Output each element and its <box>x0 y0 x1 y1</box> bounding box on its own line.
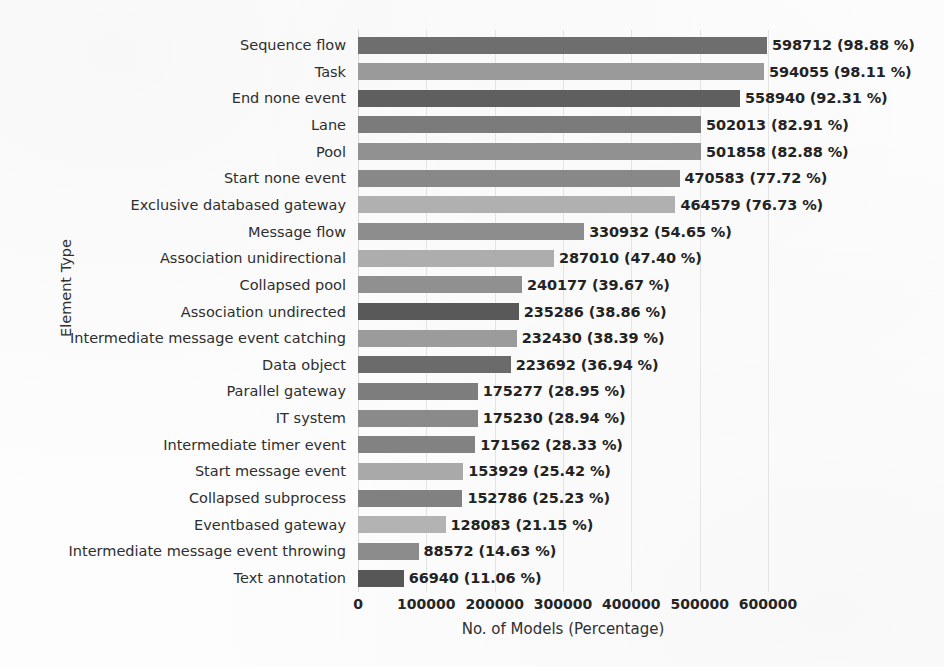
bar-value-label: 66940 (11.06 %) <box>409 570 542 586</box>
bar-value-label: 128083 (21.15 %) <box>451 517 594 533</box>
bar-row: 287010 (47.40 %) <box>358 250 768 267</box>
x-axis-tick-label: 200000 <box>465 596 523 612</box>
y-axis-tick-label: Start message event <box>195 463 346 479</box>
bar[interactable] <box>358 63 764 80</box>
bar-value-label: 330932 (54.65 %) <box>589 224 732 240</box>
bar-row: 88572 (14.63 %) <box>358 543 768 560</box>
bar[interactable] <box>358 223 584 240</box>
y-axis-tick-label: Intermediate message event catching <box>70 330 346 346</box>
bar-row: 232430 (38.39 %) <box>358 330 768 347</box>
bar-row: 594055 (98.11 %) <box>358 63 768 80</box>
bar-row: 464579 (76.73 %) <box>358 196 768 213</box>
bar-row: 152786 (25.23 %) <box>358 490 768 507</box>
bar[interactable] <box>358 463 463 480</box>
bar-value-label: 223692 (36.94 %) <box>516 357 659 373</box>
gridline <box>768 30 769 592</box>
bar-value-label: 470583 (77.72 %) <box>685 170 828 186</box>
bar-value-label: 232430 (38.39 %) <box>522 330 665 346</box>
x-axis-title: No. of Models (Percentage) <box>358 620 768 638</box>
bar-row: 153929 (25.42 %) <box>358 463 768 480</box>
bar-row: 558940 (92.31 %) <box>358 90 768 107</box>
bar[interactable] <box>358 170 680 187</box>
plot-area: 598712 (98.88 %)594055 (98.11 %)558940 (… <box>358 30 768 592</box>
bar-row: 502013 (82.91 %) <box>358 116 768 133</box>
bar[interactable] <box>358 37 767 54</box>
bar-value-label: 501858 (82.88 %) <box>706 144 849 160</box>
bar-value-label: 171562 (28.33 %) <box>480 437 623 453</box>
bar[interactable] <box>358 543 419 560</box>
bar[interactable] <box>358 143 701 160</box>
x-axis-tick-label: 500000 <box>670 596 728 612</box>
bar-value-label: 598712 (98.88 %) <box>772 37 915 53</box>
bar[interactable] <box>358 196 675 213</box>
bar-row: 235286 (38.86 %) <box>358 303 768 320</box>
bar[interactable] <box>358 90 740 107</box>
bar-row: 128083 (21.15 %) <box>358 516 768 533</box>
bar-row: 470583 (77.72 %) <box>358 170 768 187</box>
bar-value-label: 152786 (25.23 %) <box>467 490 610 506</box>
y-axis-tick-label: Lane <box>311 117 346 133</box>
bar-row: 501858 (82.88 %) <box>358 143 768 160</box>
y-axis-tick-label: Association undirected <box>181 304 346 320</box>
bar-value-label: 464579 (76.73 %) <box>680 197 823 213</box>
bar-value-label: 594055 (98.11 %) <box>769 64 912 80</box>
bar-value-label: 88572 (14.63 %) <box>424 543 557 559</box>
bar[interactable] <box>358 116 701 133</box>
bar[interactable] <box>358 490 462 507</box>
y-axis-tick-label: Text annotation <box>234 570 346 586</box>
bar-value-label: 175277 (28.95 %) <box>483 383 626 399</box>
bar-row: 171562 (28.33 %) <box>358 436 768 453</box>
y-axis-tick-label: Start none event <box>224 170 346 186</box>
bar-value-label: 558940 (92.31 %) <box>745 90 888 106</box>
y-axis-tick-label: Message flow <box>248 224 346 240</box>
bar[interactable] <box>358 303 519 320</box>
y-axis-tick-label: Eventbased gateway <box>194 517 346 533</box>
bar[interactable] <box>358 330 517 347</box>
y-axis-tick-label: Sequence flow <box>240 37 346 53</box>
y-axis-tick-label: Intermediate message event throwing <box>68 543 346 559</box>
bar-row: 175277 (28.95 %) <box>358 383 768 400</box>
bar[interactable] <box>358 276 522 293</box>
x-axis-tick-label: 600000 <box>739 596 797 612</box>
bar-row: 598712 (98.88 %) <box>358 37 768 54</box>
y-axis-tick-label: Pool <box>316 144 346 160</box>
bar[interactable] <box>358 516 446 533</box>
y-axis-tick-labels: Sequence flowTaskEnd none eventLanePoolS… <box>0 30 352 592</box>
y-axis-tick-label: Exclusive databased gateway <box>131 197 346 213</box>
y-axis-tick-label: Collapsed pool <box>240 277 346 293</box>
bar-value-label: 153929 (25.42 %) <box>468 463 611 479</box>
bar-value-label: 287010 (47.40 %) <box>559 250 702 266</box>
y-axis-tick-label: Intermediate timer event <box>163 437 346 453</box>
x-axis-tick-label: 100000 <box>397 596 455 612</box>
bar-row: 240177 (39.67 %) <box>358 276 768 293</box>
y-axis-tick-label: IT system <box>276 410 346 426</box>
x-axis-tick-label: 300000 <box>534 596 592 612</box>
x-axis-tick-label: 400000 <box>602 596 660 612</box>
bar[interactable] <box>358 356 511 373</box>
x-axis-tick-label: 0 <box>353 596 363 612</box>
y-axis-tick-label: Association unidirectional <box>160 250 346 266</box>
bar[interactable] <box>358 250 554 267</box>
bar-row: 330932 (54.65 %) <box>358 223 768 240</box>
bar-value-label: 235286 (38.86 %) <box>524 304 667 320</box>
bar[interactable] <box>358 383 478 400</box>
bar[interactable] <box>358 410 478 427</box>
bar-chart: Element Type Sequence flowTaskEnd none e… <box>0 0 944 667</box>
bar-value-label: 240177 (39.67 %) <box>527 277 670 293</box>
y-axis-tick-label: Data object <box>262 357 346 373</box>
bar[interactable] <box>358 570 404 587</box>
bar-value-label: 175230 (28.94 %) <box>483 410 626 426</box>
y-axis-tick-label: Task <box>315 64 346 80</box>
bar[interactable] <box>358 436 475 453</box>
y-axis-tick-label: End none event <box>232 90 346 106</box>
bar-row: 175230 (28.94 %) <box>358 410 768 427</box>
bar-row: 223692 (36.94 %) <box>358 356 768 373</box>
y-axis-tick-label: Parallel gateway <box>227 383 346 399</box>
bar-row: 66940 (11.06 %) <box>358 570 768 587</box>
bar-value-label: 502013 (82.91 %) <box>706 117 849 133</box>
y-axis-tick-label: Collapsed subprocess <box>189 490 346 506</box>
x-axis-tick-labels: 0100000200000300000400000500000600000 <box>358 596 768 618</box>
